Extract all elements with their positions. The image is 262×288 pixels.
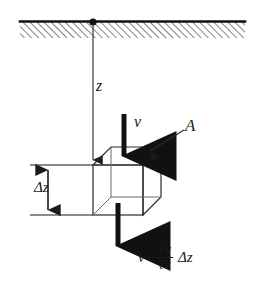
fraction-numerator: ∂v (157, 243, 173, 257)
area-label: A (185, 117, 195, 134)
equation-operator: + (146, 250, 154, 265)
outflow-velocity-equation: v + ∂v ∂z Δz (138, 243, 193, 272)
fraction-denominator: ∂z (157, 258, 172, 272)
z-label: z (96, 78, 102, 94)
physics-diagram: z v A Δz v + ∂v ∂z Δz (0, 0, 262, 288)
equation-first-term: v (138, 250, 145, 265)
diagram-canvas (0, 0, 262, 288)
inflow-velocity-label: v (134, 114, 141, 130)
thickness-label: Δz (34, 180, 49, 195)
partial-derivative-fraction: ∂v ∂z (157, 243, 173, 272)
fluid-element-cube (93, 147, 161, 215)
ceiling-hatch (20, 22, 245, 39)
equation-tail-term: Δz (178, 250, 193, 265)
area-leader-line (150, 130, 184, 151)
